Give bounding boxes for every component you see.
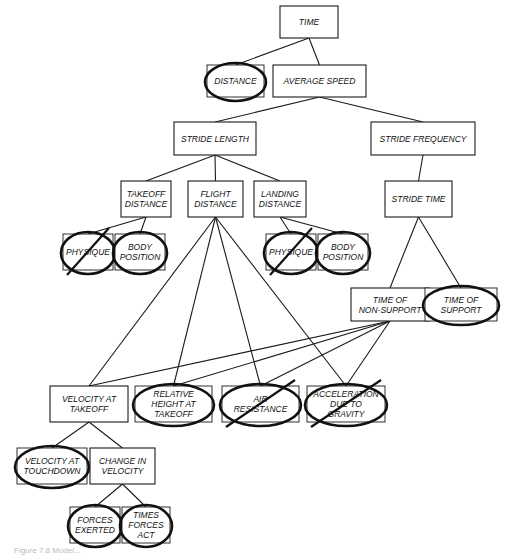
node-physique-2: PHYSIQUE bbox=[264, 228, 318, 275]
edge-time-non-support-to-velocity-takeoff bbox=[89, 321, 390, 386]
edge-flight-distance-to-relative-height bbox=[174, 217, 216, 386]
node-label: CHANGE IN bbox=[99, 456, 147, 466]
node-label: TIME OF bbox=[373, 295, 408, 305]
node-accel-gravity: ACCELERATIONDUE TOGRAVITY bbox=[305, 380, 387, 427]
node-label: TIMES bbox=[133, 510, 159, 520]
node-label: TAKEOFF bbox=[70, 404, 109, 414]
node-label: STRIDE LENGTH bbox=[181, 134, 250, 144]
node-label: DISTANCE bbox=[214, 76, 257, 86]
node-stride-length: STRIDE LENGTH bbox=[174, 122, 256, 155]
node-average-speed: AVERAGE SPEED bbox=[273, 65, 366, 97]
edge-velocity-takeoff-to-change-velocity bbox=[89, 422, 123, 448]
node-times-forces-act: TIMESFORCESACT bbox=[120, 505, 172, 547]
node-label: BODY bbox=[128, 242, 153, 252]
deterministic-model-diagram: TIMEDISTANCEAVERAGE SPEEDSTRIDE LENGTHST… bbox=[0, 0, 507, 558]
edge-time-non-support-to-accel-gravity bbox=[346, 321, 390, 386]
edge-stride-length-to-takeoff-distance bbox=[146, 155, 215, 181]
node-label: TIME bbox=[299, 17, 320, 27]
node-label: FLIGHT bbox=[200, 189, 231, 199]
node-label: FORCES bbox=[128, 520, 164, 530]
node-label: GRAVITY bbox=[328, 409, 366, 419]
node-label: SUPPORT bbox=[441, 305, 483, 315]
node-label: HEIGHT AT bbox=[151, 399, 196, 409]
node-relative-height: RELATIVEHEIGHT ATTAKEOFF bbox=[133, 384, 214, 426]
node-label: POSITION bbox=[323, 252, 364, 262]
node-flight-distance: FLIGHTDISTANCE bbox=[188, 181, 243, 217]
node-velocity-touchdown: VELOCITY ATTOUCHDOWN bbox=[15, 446, 89, 488]
edge-stride-length-to-landing-distance bbox=[215, 155, 280, 181]
node-label: AVERAGE SPEED bbox=[283, 76, 356, 86]
node-body-position-1: BODYPOSITION bbox=[113, 232, 167, 274]
node-change-velocity: CHANGE INVELOCITY bbox=[90, 448, 155, 484]
node-label: TAKEOFF bbox=[154, 409, 193, 419]
node-label: STRIDE TIME bbox=[392, 194, 446, 204]
edge-stride-time-to-time-non-support bbox=[390, 217, 419, 288]
node-distance: DISTANCE bbox=[205, 63, 266, 101]
node-forces-exerted: FORCESEXERTED bbox=[68, 505, 122, 547]
node-stride-frequency: STRIDE FREQUENCY bbox=[371, 122, 475, 155]
edge-stride-length-to-flight-distance bbox=[215, 155, 216, 181]
edge-velocity-takeoff-to-velocity-touchdown bbox=[52, 422, 89, 448]
figure-caption: Figure 7.8 Model... bbox=[14, 546, 81, 555]
node-label: BODY bbox=[331, 242, 356, 252]
nodes: TIMEDISTANCEAVERAGE SPEEDSTRIDE LENGTHST… bbox=[15, 6, 499, 547]
node-label: POSITION bbox=[120, 252, 161, 262]
edge-change-velocity-to-forces-exerted bbox=[95, 484, 123, 507]
edge-stride-frequency-to-stride-time bbox=[419, 155, 424, 181]
node-time: TIME bbox=[280, 6, 338, 38]
node-label: EXERTED bbox=[75, 525, 115, 535]
node-body-position-2: BODYPOSITION bbox=[316, 232, 370, 274]
node-label: STRIDE FREQUENCY bbox=[380, 134, 468, 144]
edge-time-to-distance bbox=[236, 38, 310, 65]
node-label: TIME OF bbox=[444, 295, 479, 305]
node-label: DISTANCE bbox=[259, 199, 302, 209]
node-label: VELOCITY AT bbox=[25, 456, 80, 466]
node-time-non-support: TIME OFNON-SUPPORT bbox=[351, 288, 429, 321]
edge-flight-distance-to-air-resistance bbox=[216, 217, 261, 386]
node-label: TOUCHDOWN bbox=[24, 466, 82, 476]
node-label: TAKEOFF bbox=[127, 189, 166, 199]
edge-average-speed-to-stride-frequency bbox=[320, 97, 424, 122]
node-label: DISTANCE bbox=[125, 199, 168, 209]
node-label: VELOCITY bbox=[101, 466, 144, 476]
node-label: FORCES bbox=[77, 515, 113, 525]
node-label: LANDING bbox=[261, 189, 299, 199]
node-label: NON-SUPPORT bbox=[359, 305, 422, 315]
node-label: VELOCITY AT bbox=[62, 394, 117, 404]
node-velocity-takeoff: VELOCITY ATTAKEOFF bbox=[50, 386, 128, 422]
node-stride-time: STRIDE TIME bbox=[385, 181, 452, 217]
node-time-support: TIME OFSUPPORT bbox=[423, 286, 499, 325]
node-label: ACT bbox=[137, 530, 156, 540]
node-label: RESISTANCE bbox=[234, 404, 288, 414]
node-air-resistance: AIRRESISTANCE bbox=[220, 380, 301, 427]
node-takeoff-distance: TAKEOFFDISTANCE bbox=[121, 181, 171, 217]
edge-time-to-average-speed bbox=[309, 38, 320, 65]
node-landing-distance: LANDINGDISTANCE bbox=[254, 181, 306, 217]
edge-time-non-support-to-relative-height bbox=[174, 321, 391, 386]
edge-change-velocity-to-times-forces-act bbox=[123, 484, 147, 507]
node-physique-1: PHYSIQUE bbox=[61, 228, 115, 275]
edge-stride-time-to-time-support bbox=[419, 217, 462, 288]
edges bbox=[52, 38, 461, 507]
node-label: DISTANCE bbox=[194, 199, 237, 209]
node-label: RELATIVE bbox=[153, 389, 194, 399]
node-label: ACCELERATION bbox=[312, 389, 379, 399]
